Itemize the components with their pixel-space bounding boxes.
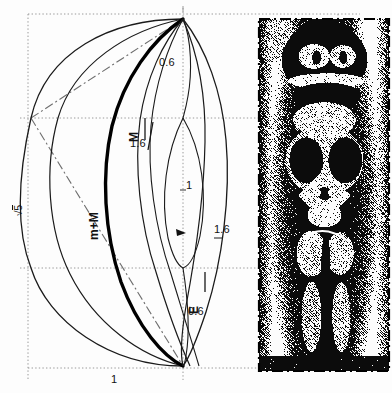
figure-root: √5 m+M M E 0.6 1.6 1 1.6 0.6 1 <box>0 0 392 393</box>
label-m-plus-M: m+M <box>88 212 100 240</box>
arc-sqrt5-outer <box>21 19 184 366</box>
label-1-6-left: 1.6 <box>130 138 146 149</box>
sqrt-symbol: √ <box>13 211 24 217</box>
lens-right-upper <box>183 118 203 268</box>
label-1-6-right: 1.6 <box>214 224 230 235</box>
sqrt5-radicand: 5 <box>12 205 24 211</box>
arc-left-inner <box>50 19 183 366</box>
label-sqrt5: √5 <box>14 205 24 216</box>
label-1-bottom: 1 <box>111 374 117 385</box>
carved-figure-photo <box>259 19 389 371</box>
carved-figure-photo-canvas <box>259 19 389 371</box>
curve-M <box>138 19 190 366</box>
lens-left-upper <box>164 118 183 268</box>
curve-m-plus-M <box>106 19 183 366</box>
node-marker-mid <box>176 229 186 236</box>
label-0-6-top: 0.6 <box>159 57 175 68</box>
label-0-6-bottom: 0.6 <box>188 306 204 317</box>
label-1-center: 1 <box>186 180 192 191</box>
